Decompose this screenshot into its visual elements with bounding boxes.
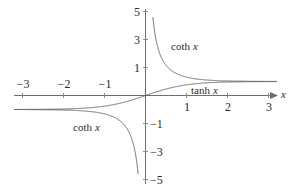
annotation-coth-lower: cothx: [73, 122, 100, 133]
annotation-tanh-right-variable: x: [210, 84, 218, 96]
x-axis-name-label: x: [281, 89, 286, 100]
y-tick-label--3: −3: [150, 146, 172, 158]
y-tick-label--1: −1: [150, 118, 172, 130]
y-tick-label-1: 1: [124, 62, 140, 74]
curve-coth-negative-branch: [14, 110, 138, 174]
y-tick-label-3: 3: [124, 34, 140, 46]
annotation-coth-upper: cothx: [171, 41, 198, 52]
annotation-coth-lower-text: coth: [73, 121, 92, 133]
plot-canvas: [0, 0, 293, 189]
x-tick-label--2: −2: [53, 78, 75, 90]
y-tick-label--5: −5: [150, 174, 172, 186]
annotation-coth-upper-variable: x: [190, 40, 198, 52]
x-tick-label-2: 2: [220, 101, 236, 113]
y-tick-label-5: 5: [124, 6, 140, 18]
x-tick-label--3: −3: [12, 78, 34, 90]
annotation-coth-upper-text: coth: [171, 40, 190, 52]
x-tick-label-3: 3: [261, 101, 277, 113]
hyperbolic-functions-figure: −3 −2 −1 1 2 3 5 3 1 −1 −3 −5 x cothx ta…: [0, 0, 293, 189]
x-tick-label--1: −1: [94, 78, 116, 90]
x-tick-label-1: 1: [179, 101, 195, 113]
annotation-coth-lower-variable: x: [92, 121, 100, 133]
annotation-tanh-right: tanhx: [191, 85, 218, 96]
annotation-tanh-right-text: tanh: [191, 84, 210, 96]
x-axis-arrow-icon: [270, 92, 278, 99]
